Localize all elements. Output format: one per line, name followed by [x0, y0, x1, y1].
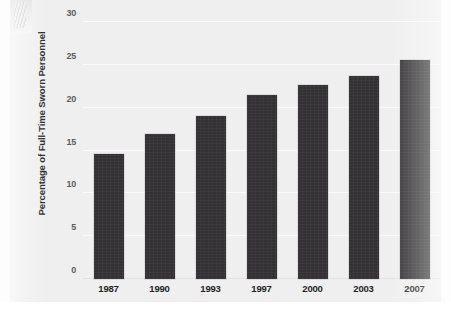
y-tick-label-25: 25 [54, 52, 76, 61]
caption-strip: Data include black or African American, … [0, 302, 451, 319]
x-tick-label-2003: 2003 [338, 283, 389, 294]
x-tick-label-1997: 1997 [236, 283, 287, 294]
bar-2000 [298, 85, 328, 279]
scan-artifact-detail [14, 2, 26, 28]
chart-figure: Percentage of Full-Time Sworn Personnel … [0, 0, 451, 319]
bar-1987 [94, 154, 124, 279]
x-axis-tick-labels: 1987199019931997200020032007 [83, 283, 440, 297]
gridline-30 [83, 21, 440, 22]
y-axis-title: Percentage of Full-Time Sworn Personnel [36, 19, 47, 229]
x-tick-label-1990: 1990 [134, 283, 185, 294]
x-tick-label-2000: 2000 [287, 283, 338, 294]
bar-1997 [247, 95, 277, 279]
bar-2003 [349, 76, 379, 279]
x-tick-label-1993: 1993 [185, 283, 236, 294]
x-tick-label-1987: 1987 [83, 283, 134, 294]
y-tick-label-5: 5 [54, 223, 76, 232]
plot-area [83, 22, 440, 279]
y-axis-tick-labels: 051015202530 [50, 22, 76, 279]
y-tick-label-20: 20 [54, 95, 76, 104]
caption-partial-text: Data include black or African American, … [2, 302, 451, 305]
bar-2007 [400, 60, 430, 279]
x-tick-label-2007: 2007 [389, 283, 440, 294]
gridline-25 [83, 64, 440, 65]
y-tick-label-30: 30 [54, 9, 76, 18]
y-tick-label-10: 10 [54, 180, 76, 189]
y-tick-label-15: 15 [54, 138, 76, 147]
y-tick-label-0: 0 [54, 266, 76, 275]
chart-panel: Percentage of Full-Time Sworn Personnel … [10, 0, 441, 302]
bar-1993 [196, 116, 226, 279]
bar-1990 [145, 134, 175, 279]
